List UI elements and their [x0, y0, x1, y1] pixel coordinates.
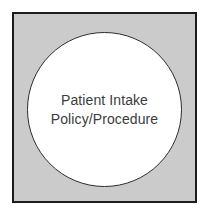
diagram-canvas: Patient Intake Policy/Procedure [0, 0, 210, 217]
shape-label: Patient Intake Policy/Procedure [51, 91, 158, 129]
shape-label-line1: Patient Intake [61, 92, 148, 108]
inner-circle-shape: Patient Intake Policy/Procedure [27, 32, 182, 187]
shape-label-line2: Policy/Procedure [51, 111, 158, 127]
outer-square-shape: Patient Intake Policy/Procedure [12, 12, 197, 203]
